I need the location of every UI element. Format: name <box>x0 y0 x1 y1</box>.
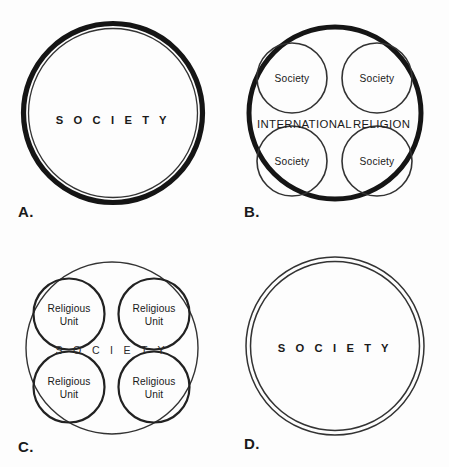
panel-b-society-label-4: Society <box>360 156 396 167</box>
panel-b-letter: B. <box>244 204 260 219</box>
panel-c-diagram: Religious Unit Religious Unit Religious … <box>0 235 225 467</box>
panel-c-unit-label-2-line2: Unit <box>145 316 164 327</box>
panel-b-society-label-2: Society <box>360 73 396 84</box>
panel-a-center-label: S O C I E T Y <box>56 114 170 126</box>
panel-c-unit-circle-2 <box>119 279 190 350</box>
panel-c-unit-label-4-line1: Religious <box>133 376 176 387</box>
panel-c-unit-label-1-line2: Unit <box>60 316 79 327</box>
panel-b-diagram: Society Society Society Society INTERNAT… <box>225 0 449 235</box>
panel-c-letter: C. <box>18 439 34 454</box>
panel-b-center-label-word2: RELIGION <box>353 118 410 130</box>
panel-c-unit-label-3-line2: Unit <box>60 389 79 400</box>
panel-d-center-label: S O C I E T Y <box>278 342 392 354</box>
panel-d-letter: D. <box>244 436 260 451</box>
panel-d: S O C I E T Y D. <box>225 235 449 467</box>
panel-a-diagram: S O C I E T Y <box>0 0 225 235</box>
panel-c-unit-label-1-line1: Religious <box>48 303 91 314</box>
panel-c-center-label: S O C I E T Y <box>56 344 169 356</box>
panel-b-society-label-1: Society <box>275 73 311 84</box>
panel-c-unit-circle-4 <box>119 352 190 423</box>
panel-c-unit-label-2-line1: Religious <box>133 303 176 314</box>
panel-c: Religious Unit Religious Unit Religious … <box>0 235 225 467</box>
panel-b-center-label-word1: INTERNATIONAL <box>257 118 352 130</box>
panel-a-outer-circle <box>24 24 203 203</box>
panel-b-society-label-3: Society <box>275 156 311 167</box>
panel-b: Society Society Society Society INTERNAT… <box>225 0 449 235</box>
figure-container: S O C I E T Y A. Society Society Society… <box>0 0 449 467</box>
panel-b-outer-circle <box>249 27 421 199</box>
panel-a: S O C I E T Y A. <box>0 0 225 235</box>
panel-c-unit-circle-3 <box>34 352 105 423</box>
panel-a-letter: A. <box>18 204 34 219</box>
panel-d-diagram: S O C I E T Y <box>225 235 449 467</box>
panel-c-unit-label-3-line1: Religious <box>48 376 91 387</box>
panel-a-inner-circle <box>29 29 198 198</box>
panel-c-unit-circle-1 <box>34 279 105 350</box>
panel-c-unit-label-4-line2: Unit <box>145 389 164 400</box>
